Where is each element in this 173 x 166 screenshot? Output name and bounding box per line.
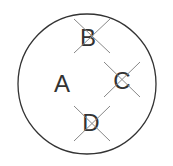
label-c: C xyxy=(113,67,130,94)
label-a: A xyxy=(54,70,70,97)
diagram: A B C D xyxy=(0,0,173,166)
